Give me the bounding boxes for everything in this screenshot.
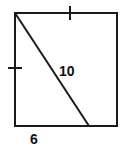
figure-canvas: 10 6 [0,0,131,147]
diagonal-length-label: 10 [59,63,75,79]
geometry-figure: 10 6 [0,0,131,147]
base-length-label: 6 [30,131,38,147]
